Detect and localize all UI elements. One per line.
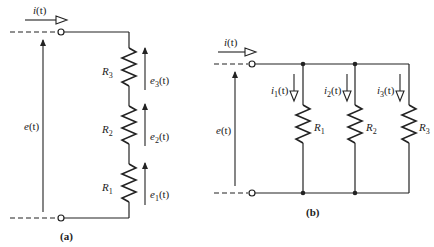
label-i1: i1(t) (271, 84, 289, 99)
label-voltage-e: e(t) (24, 120, 40, 133)
circuit-diagrams: i(t) e(t) R3 R2 R1 e3(t) e2(t) e1(t) (a) (0, 0, 434, 247)
top-terminal (249, 61, 255, 67)
junction-node (353, 191, 358, 196)
resistor-r1 (296, 105, 310, 143)
label-e3: e3(t) (150, 74, 170, 89)
label-e2: e2(t) (150, 130, 170, 145)
resistor-r2 (122, 106, 136, 144)
series-circuit-a: i(t) e(t) R3 R2 R1 e3(t) e2(t) e1(t) (a) (10, 4, 170, 243)
current-arrow-i2 (343, 74, 351, 101)
label-current-i: i(t) (224, 36, 238, 49)
label-current-i: i(t) (33, 4, 47, 17)
current-arrow-i (218, 48, 256, 56)
bottom-terminal (249, 190, 255, 196)
label-r1: R1 (101, 181, 113, 196)
label-voltage-e: e(t) (216, 124, 232, 137)
bottom-terminal (58, 215, 64, 221)
resistor-r3 (122, 48, 136, 86)
top-terminal (58, 29, 64, 35)
resistor-r3 (402, 105, 416, 143)
resistor-r2 (348, 105, 362, 143)
current-arrow-i (25, 16, 67, 24)
label-r3: R3 (101, 65, 113, 80)
label-i3: i3(t) (377, 84, 395, 99)
current-arrow-i1 (290, 74, 298, 101)
parallel-circuit-b: i(t) e(t) i1(t) i2(t) (214, 36, 430, 219)
label-r2: R2 (365, 121, 377, 136)
label-i2: i2(t) (324, 84, 342, 99)
caption-a: (a) (60, 230, 73, 243)
junction-node (301, 191, 306, 196)
caption-b: (b) (306, 206, 320, 219)
current-arrow-i3 (396, 74, 404, 101)
label-e1: e1(t) (150, 188, 170, 203)
resistor-r1 (122, 164, 136, 202)
label-r3: R3 (418, 121, 430, 136)
label-r1: R1 (313, 121, 325, 136)
label-r2: R2 (101, 123, 113, 138)
